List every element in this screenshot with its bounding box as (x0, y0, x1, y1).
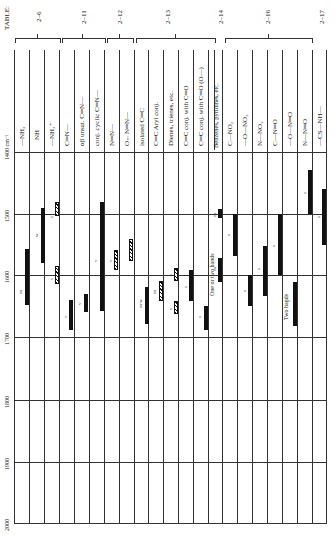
col-label-conj-cyclic-cn: conj. cyclic C═N— (93, 90, 101, 146)
column-line (74, 50, 75, 524)
col-label-o-n-o: —O—N═O (286, 112, 294, 146)
y-tick-1400: 1400 cm⁻¹ (3, 134, 11, 160)
col-label-nh2: —NH₂ (18, 126, 26, 146)
band-c-n-o (278, 214, 282, 275)
bracket-tick (37, 34, 38, 38)
intensity-label: s (49, 278, 54, 280)
band-cc-conj-co (189, 270, 193, 301)
bracket-2-12 (107, 38, 134, 43)
band-c-no2 (233, 214, 237, 256)
intensity-label: s (49, 216, 54, 218)
group-label-2-12: 2–12 (116, 10, 124, 24)
band-nh (41, 208, 45, 263)
band-dienes-hatched (174, 301, 178, 314)
group-label-2-11: 2–11 (80, 10, 88, 24)
band-cc-conj-co-o (204, 306, 208, 330)
band-cs-nh (322, 189, 326, 245)
annotation-two-bands: Two bands (282, 294, 290, 320)
gridline-1900 (14, 462, 327, 463)
band-o-n-o (293, 282, 297, 326)
bracket-tick (268, 34, 269, 38)
y-tick-1600: 1600 (3, 271, 11, 283)
col-label-aryl-conj: C═C Aryl conj. (152, 102, 160, 146)
band-o-no2 (248, 275, 252, 306)
bracket-tick (82, 34, 83, 38)
gridline-1700 (14, 337, 327, 338)
column-line (252, 50, 253, 524)
intensity-label: s (256, 268, 261, 270)
col-label-o-nn: O←N═N— (123, 112, 131, 146)
intensity-label: w (34, 233, 39, 237)
col-label-isolated-cc: isolated C═C (138, 108, 146, 146)
band-benzenes-1 (218, 209, 222, 218)
gridline-2000 (14, 523, 327, 524)
column-line (312, 50, 313, 524)
column-line (29, 50, 30, 524)
intensity-label: v (77, 303, 82, 306)
col-label-nh: NH (33, 130, 41, 140)
y-tick-1700: 1700 (3, 333, 11, 345)
gridline-1400 (14, 152, 327, 153)
group-label-2-14: 2–14 (217, 10, 225, 24)
col-label-c-no2: C—NO₂ (226, 122, 234, 146)
band-cn (69, 300, 73, 330)
intensity-label: s (226, 234, 231, 236)
col-label-cs-nh: —CS—NH— (316, 106, 324, 146)
intensity-label: v (93, 260, 98, 263)
bracket-2-13 (136, 38, 216, 43)
column-line (134, 50, 135, 524)
intensity-label: s (242, 290, 247, 292)
bracket-2-11 (62, 38, 106, 43)
intensity-label: s (302, 192, 307, 194)
col-label-nh3: —NH₃⁺ (48, 122, 56, 146)
column-line (119, 50, 120, 524)
band-nn-hatched (114, 250, 118, 270)
group-label-2-6: 2–6 (35, 12, 43, 23)
group-label-2-16: 2–16 (264, 10, 272, 24)
col-label-cc-conj-co-o: C═C conj. with C═O (O—) (197, 67, 205, 146)
intensity-label: s (271, 245, 276, 247)
col-label-cn: C═N— (63, 124, 71, 146)
table-label: TABLE: (3, 6, 11, 30)
group-label-2-17: 2–17 (318, 10, 326, 24)
band-ab-unsat-cn (84, 294, 88, 312)
band-conj-cyclic-cn (100, 202, 104, 311)
intensity-label: m (18, 290, 23, 294)
group-label-2-13: 2–13 (164, 10, 172, 24)
annotation-one-or-two-bands: One or two bands (208, 254, 216, 297)
bracket-2-16 (225, 38, 313, 43)
intensity-label: s (183, 286, 188, 288)
column-line (267, 50, 268, 524)
column-line (178, 50, 179, 524)
intensity-label: s (168, 308, 173, 310)
column-line (14, 50, 15, 524)
column-line (59, 50, 60, 524)
band-o-nn-hatched (129, 239, 133, 261)
band-benzenes-2 (218, 258, 222, 282)
intensity-label: v (63, 316, 68, 319)
band-aryl-conj-hatched (159, 281, 163, 301)
intensity-label: v (108, 260, 113, 263)
band-n-n-o (308, 170, 312, 214)
column-line (282, 50, 283, 524)
column-line (222, 50, 223, 524)
col-label-benzenes: Benzenes, pyridines, etc. (212, 83, 220, 148)
intensity-label: m-w (138, 299, 143, 308)
column-line (44, 50, 45, 524)
column-line (237, 50, 238, 524)
col-label-o-no2: —O—NO₂ (241, 114, 249, 146)
band-nh2 (25, 249, 29, 305)
column-line (297, 50, 298, 524)
column-line (89, 50, 90, 524)
intensity-label: s (197, 316, 202, 318)
band-isolated-cc (145, 287, 149, 324)
intensity-label: s (316, 216, 321, 218)
intensity-label: s (168, 274, 173, 276)
column-line (193, 50, 194, 524)
band-nh3-hatched (55, 202, 59, 216)
column-line (326, 50, 327, 524)
y-tick-2000: 2000 (3, 519, 11, 531)
col-label-n-no2: N—NO₂ (256, 121, 264, 146)
column-line (104, 50, 105, 524)
col-label-ab-unsat-cn: αβ unsat. C═N— (78, 97, 86, 146)
